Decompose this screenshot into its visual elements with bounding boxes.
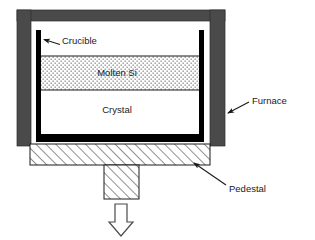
furnace-left-wall [17,10,31,146]
crystal-label: Crystal [102,104,132,115]
molten-si-label: Molten Si [97,67,137,78]
furnace-top-wall [17,10,225,21]
furnace-label: Furnace [252,95,287,106]
crucible-right-wall [199,30,204,142]
furnace-right-wall [210,10,225,146]
pedestal-stem [104,165,139,199]
crucible-label: Crucible [62,35,97,46]
pedestal-label: Pedestal [229,183,266,194]
diagram-canvas: Crucible Furnace Pedestal Molten Si Crys… [0,0,315,240]
crucible-bottom-wall [36,134,204,142]
pedestal-plate [30,144,210,165]
crucible-left-wall [36,30,41,142]
crystal-growth-furnace-diagram: Crucible Furnace Pedestal Molten Si Crys… [0,0,315,240]
